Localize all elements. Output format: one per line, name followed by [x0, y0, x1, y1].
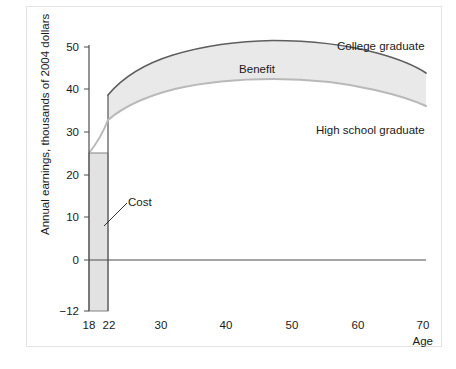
- y-tick-label-10: 10: [66, 211, 79, 223]
- x-tick-label-60: 60: [352, 319, 365, 331]
- y-tick-label-20: 20: [66, 169, 79, 181]
- benefit-label: Benefit: [239, 63, 276, 75]
- x-tick-label-50: 50: [286, 319, 299, 331]
- high-school-graduate-label: High school graduate: [316, 124, 425, 136]
- y-tick-label-40: 40: [66, 83, 79, 95]
- earnings-chart: 50 40 30 20 10 0 −12 18 22 30 40 50 60 7…: [27, 7, 443, 348]
- cost-label: Cost: [128, 196, 152, 208]
- cost-region: [89, 153, 108, 311]
- x-tick-label-70: 70: [417, 319, 430, 331]
- y-tick-label-30: 30: [66, 126, 79, 138]
- college-graduate-label: College graduate: [337, 40, 425, 52]
- y-tick-label-minus12: −12: [59, 305, 79, 317]
- y-tick-label-50: 50: [66, 41, 79, 53]
- x-tick-label-30: 30: [155, 319, 168, 331]
- y-axis-ticks: [84, 47, 89, 311]
- y-tick-label-0: 0: [73, 254, 79, 266]
- y-axis-title: Annual earnings, thousands of 2004 dolla…: [39, 14, 51, 235]
- x-tick-label-18: 18: [83, 319, 96, 331]
- x-axis-title: Age: [413, 335, 433, 347]
- x-tick-label-22: 22: [103, 319, 116, 331]
- x-tick-label-40: 40: [220, 319, 233, 331]
- chart-figure-frame: 50 40 30 20 10 0 −12 18 22 30 40 50 60 7…: [26, 6, 442, 347]
- benefit-region: [108, 41, 426, 121]
